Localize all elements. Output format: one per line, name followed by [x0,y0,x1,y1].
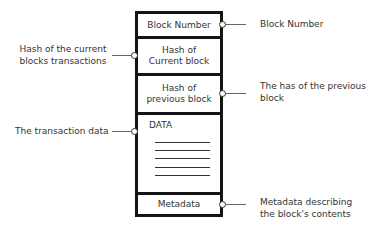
hash-previous-line2: previous block [146,94,211,105]
hash-current-cell: Hash of Current block [138,39,220,73]
block-number-cell: Block Number [138,14,220,36]
metadata-cell: Metadata [138,195,220,214]
hash-current-line2: Current block [149,56,210,67]
connector-dot-icon [219,90,226,97]
annotation-hash-current: Hash of the current blocks transactions [18,43,108,67]
connector-line [224,93,246,94]
connector-dot-icon [131,52,138,59]
connector-dot-icon [219,21,226,28]
hash-current-line1: Hash of [162,45,196,56]
connector-dot-icon [131,128,138,135]
connector-line [224,24,246,25]
metadata-text: Metadata [158,199,201,210]
block-diagram: Block Number Hash of Current block Hash … [135,11,223,217]
block-number-text: Block Number [147,20,210,31]
divider [138,112,220,115]
data-line [155,142,210,143]
annotation-block-number: Block Number [260,18,323,30]
connector-line [224,204,246,205]
annotation-hash-previous: The has of the previous block [260,80,366,104]
annotation-data: The transaction data [15,125,109,137]
data-line [155,158,210,159]
data-title: DATA [149,120,172,130]
data-line [155,175,210,176]
hash-previous-line1: Hash of [162,83,196,94]
connector-dot-icon [219,201,226,208]
hash-previous-cell: Hash of previous block [138,76,220,112]
annotation-metadata: Metadata describing the block's contents [260,196,352,220]
data-line [155,150,210,151]
data-line [155,167,210,168]
